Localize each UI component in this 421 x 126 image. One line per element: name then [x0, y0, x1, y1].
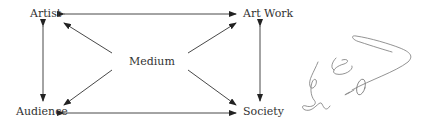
- node-society: Society: [243, 105, 284, 118]
- node-audience: Audience: [16, 105, 68, 118]
- signature-scribble: [303, 36, 411, 110]
- node-artwork: Art Work: [243, 7, 293, 20]
- edge-medium-audience: [64, 70, 112, 105]
- node-artist: Artist: [30, 7, 61, 20]
- edge-medium-artist: [64, 23, 112, 53]
- node-medium: Medium: [129, 55, 175, 68]
- edge-medium-artwork: [188, 23, 236, 53]
- edge-medium-society: [188, 70, 236, 105]
